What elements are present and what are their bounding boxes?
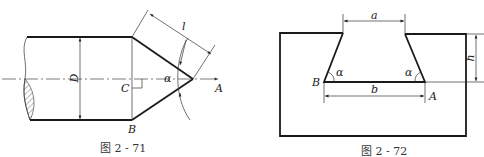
label-B: B bbox=[127, 123, 136, 136]
label-B-fig72: B bbox=[311, 76, 320, 89]
label-D: D bbox=[68, 73, 81, 83]
label-C: C bbox=[121, 82, 130, 95]
label-A-fig72: A bbox=[428, 90, 437, 103]
extension-line-l-1 bbox=[132, 10, 148, 37]
label-alpha: α bbox=[164, 72, 172, 85]
extension-line-l-2 bbox=[193, 45, 215, 79]
label-b: b bbox=[371, 83, 378, 96]
label-h: h bbox=[464, 54, 477, 61]
cone-upper-edge bbox=[132, 37, 193, 79]
angle-arc-right bbox=[415, 72, 421, 82]
label-a: a bbox=[371, 9, 378, 22]
figure-2-72: a b h α α B A 图 2 - 72 bbox=[280, 9, 484, 157]
cone-lower-edge bbox=[132, 79, 193, 120]
figure-2-71: D C B A l α 图 2 - 71 bbox=[2, 10, 223, 155]
dimension-l bbox=[150, 14, 211, 54]
angle-arc-left bbox=[328, 72, 334, 82]
label-alpha-right: α bbox=[405, 66, 413, 79]
diagram-canvas: D C B A l α 图 2 - 71 a b bbox=[0, 0, 484, 157]
label-alpha-left: α bbox=[336, 66, 344, 79]
label-l: l bbox=[182, 20, 186, 33]
caption-fig-2-72: 图 2 - 72 bbox=[361, 145, 407, 157]
shaft-section-hatch bbox=[24, 79, 34, 120]
right-angle-mark bbox=[132, 79, 142, 88]
caption-fig-2-71: 图 2 - 71 bbox=[100, 142, 146, 155]
label-A: A bbox=[214, 82, 223, 95]
